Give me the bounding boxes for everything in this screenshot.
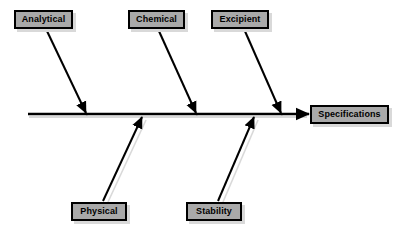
effect-box-specifications[interactable]: Specifications xyxy=(310,105,389,124)
branch-physical xyxy=(103,117,142,201)
fishbone-diagram-canvas: Analytical Chemical Excipient Physical S… xyxy=(0,0,400,235)
effect-label-specifications: Specifications xyxy=(318,110,380,119)
connector-shadows xyxy=(29,32,307,202)
cause-label-physical: Physical xyxy=(80,207,117,216)
cause-label-analytical: Analytical xyxy=(22,15,66,24)
branch-analytical xyxy=(46,29,86,113)
branch-shadow-physical xyxy=(108,120,146,202)
cause-box-stability[interactable]: Stability xyxy=(186,202,242,221)
cause-box-analytical[interactable]: Analytical xyxy=(14,10,73,29)
cause-label-chemical: Chemical xyxy=(136,15,177,24)
branch-excipient xyxy=(244,29,281,113)
cause-box-excipient[interactable]: Excipient xyxy=(211,10,269,29)
cause-box-physical[interactable]: Physical xyxy=(71,202,127,221)
cause-box-chemical[interactable]: Chemical xyxy=(128,10,185,29)
branch-shadow-stability xyxy=(223,120,258,202)
cause-label-excipient: Excipient xyxy=(220,15,261,24)
branch-stability xyxy=(218,117,254,201)
branch-chemical xyxy=(158,29,196,113)
cause-label-stability: Stability xyxy=(196,207,232,216)
